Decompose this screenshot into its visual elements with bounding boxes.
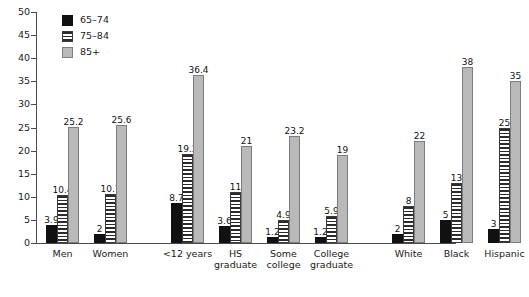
- bar-value-label: 23.2: [284, 127, 304, 136]
- x-axis-category-label-line: College: [292, 248, 372, 259]
- y-axis-tick-label: 40: [2, 53, 30, 63]
- legend-swatch-icon: [62, 47, 73, 58]
- y-axis-tick: 0: [0, 238, 30, 248]
- bar: 3.9: [46, 225, 57, 243]
- bar-group: 1.24.923.2: [267, 12, 300, 243]
- bar-value-label: 8: [406, 197, 412, 206]
- legend-item-label: 65–74: [80, 15, 109, 25]
- bar: 4.9: [278, 220, 289, 243]
- bar: 5: [440, 220, 451, 243]
- y-axis-tick-label: 50: [2, 7, 30, 17]
- bar-group: 1.25.919: [315, 12, 348, 243]
- bar-group: 3.61121: [219, 12, 252, 243]
- bar: 35: [510, 81, 521, 243]
- y-axis-tick-label: 45: [2, 30, 30, 40]
- bar: 22: [414, 141, 425, 243]
- bar-group: 2822: [392, 12, 425, 243]
- bar: 3.6: [219, 226, 230, 243]
- bar-value-label: 11: [230, 183, 241, 192]
- x-axis-category-label-line: Women: [71, 248, 151, 259]
- legend-swatch-icon: [62, 15, 73, 26]
- bar: 19: [337, 155, 348, 243]
- bar: 38: [462, 67, 473, 243]
- bar-value-label: 25: [499, 119, 510, 128]
- bar: 8.7: [171, 203, 182, 243]
- y-axis-tick-label: 20: [2, 146, 30, 156]
- y-axis-tick: 50: [0, 7, 30, 17]
- y-axis-tick-label: 25: [2, 123, 30, 133]
- y-axis-tick-label: 10: [2, 192, 30, 202]
- y-axis-tick-label: 35: [2, 76, 30, 86]
- bar-value-label: 2: [97, 225, 103, 234]
- y-axis-tick: 40: [0, 53, 30, 63]
- x-axis-category-label: Hispanic: [465, 248, 529, 259]
- bar-group: 51338: [440, 12, 473, 243]
- bar-group: 32535: [488, 12, 521, 243]
- legend-item-label: 85+: [80, 47, 100, 57]
- bar: 23.2: [289, 136, 300, 243]
- bar-value-label: 3: [491, 220, 497, 229]
- bar-value-label: 13: [451, 174, 462, 183]
- bar-value-label: 22: [414, 132, 425, 141]
- x-axis-category-label: Women: [71, 248, 151, 259]
- y-axis-tick: 10: [0, 192, 30, 202]
- bar: 19.3: [182, 154, 193, 243]
- y-axis-tick: 30: [0, 99, 30, 109]
- y-axis-tick-label: 5: [2, 215, 30, 225]
- bar: 5.9: [326, 216, 337, 243]
- y-axis-tick: 35: [0, 76, 30, 86]
- bar: 21: [241, 146, 252, 243]
- y-axis-tick-label: 15: [2, 169, 30, 179]
- bar: 1.2: [267, 237, 278, 243]
- y-axis-tick: 45: [0, 30, 30, 40]
- x-axis-category-label-line: Hispanic: [465, 248, 529, 259]
- legend-item[interactable]: 85+: [62, 45, 109, 59]
- x-axis-category-label: Collegegraduate: [292, 248, 372, 270]
- y-axis-tick: 20: [0, 146, 30, 156]
- bar-value-label: 35: [510, 72, 521, 81]
- x-axis-line: [36, 243, 456, 244]
- bar-value-label: 25.6: [111, 116, 131, 125]
- bar-value-label: 25.2: [63, 118, 83, 127]
- bar-value-label: 2: [395, 225, 401, 234]
- bar-value-label: 38: [462, 58, 473, 67]
- legend: 65–7475–8485+: [62, 13, 109, 61]
- bar-group: 8.719.336.4: [171, 12, 204, 243]
- bar-value-label: 21: [241, 137, 252, 146]
- bar: 25.2: [68, 127, 79, 243]
- legend-swatch-icon: [62, 31, 73, 42]
- y-axis-tick-label: 0: [2, 238, 30, 248]
- y-axis-tick: 5: [0, 215, 30, 225]
- bar-value-label: 36.4: [188, 66, 208, 75]
- bar: 2: [392, 234, 403, 243]
- x-axis-category-label-line: graduate: [292, 259, 372, 270]
- y-axis-tick: 25: [0, 123, 30, 133]
- bar: 3: [488, 229, 499, 243]
- bar-value-label: 5: [443, 211, 449, 220]
- bar: 25: [499, 128, 510, 244]
- legend-item-label: 75–84: [80, 31, 109, 41]
- bar-value-label: 19: [337, 146, 348, 155]
- bar: 11: [230, 192, 241, 243]
- bar: 10.7: [105, 194, 116, 243]
- bar: 10.4: [57, 195, 68, 243]
- y-axis-tick-label: 30: [2, 99, 30, 109]
- bar: 13: [451, 183, 462, 243]
- bar: 36.4: [193, 75, 204, 243]
- bar: 1.2: [315, 237, 326, 243]
- bar: 25.6: [116, 125, 127, 243]
- legend-item[interactable]: 65–74: [62, 13, 109, 27]
- legend-item[interactable]: 75–84: [62, 29, 109, 43]
- bar: 2: [94, 234, 105, 243]
- y-axis-tick: 15: [0, 169, 30, 179]
- bar: 8: [403, 206, 414, 243]
